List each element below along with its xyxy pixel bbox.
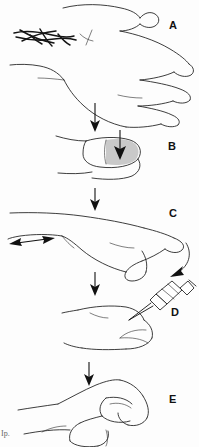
panel-label-b: B [168,141,176,152]
panel-a-drawing [10,5,193,128]
figure-root: A B C D E Ip. [0,0,199,447]
panel-b-drawing [56,130,140,179]
panel-c-drawing [8,213,189,281]
arrow-d-to-e [84,362,94,386]
panel-label-d: D [171,307,179,318]
panel-e-drawing [18,380,148,447]
panel-label-c: C [169,208,177,219]
corner-artifact-text: Ip. [1,430,10,438]
panel-label-e: E [169,394,177,405]
tip-curved-arrow [170,243,189,277]
arrow-b-to-c [90,188,100,211]
lesion-mark [14,29,76,46]
arrow-a-to-b [90,103,100,132]
panel-label-a: A [169,20,177,31]
figure-illustration [0,0,199,447]
arrow-c-to-d [90,272,100,296]
syringe [129,280,196,320]
traction-arrow [9,236,55,246]
